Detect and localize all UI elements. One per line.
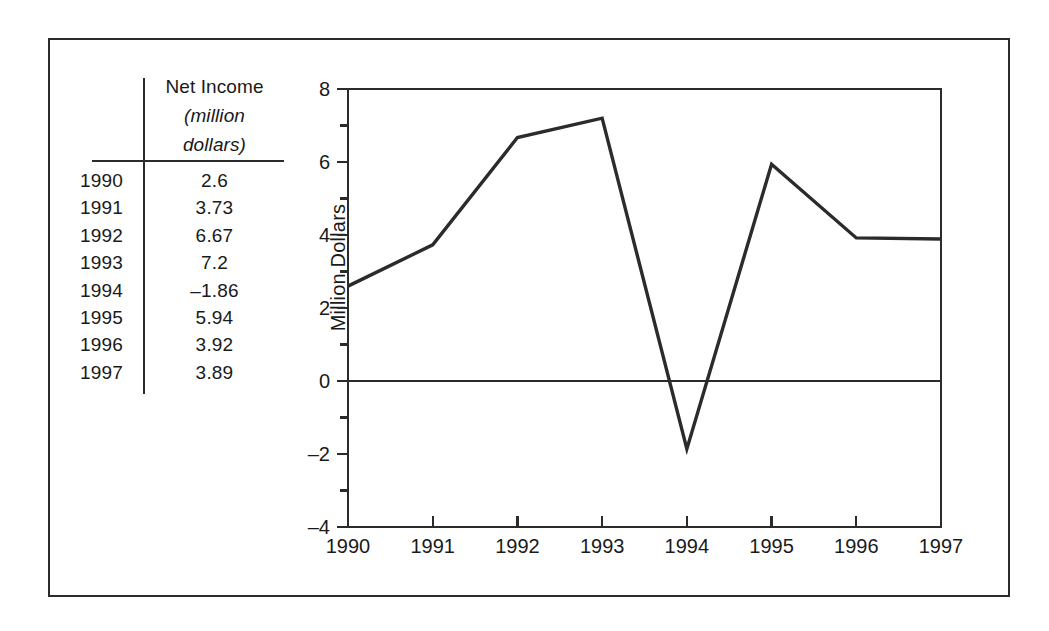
table-cell-year: 1991 (80, 194, 140, 221)
x-tick-label: 1991 (410, 535, 455, 557)
line-chart: Million Dollars –4–202468 19901991199219… (286, 60, 986, 580)
y-tick-label: –2 (308, 443, 330, 465)
plot-frame (348, 89, 941, 527)
table-cell-net-income: 3.73 (145, 194, 284, 221)
x-axis-tick-labels: 19901991199219931994199519961997 (326, 535, 964, 557)
series-polyline-net-income (348, 118, 941, 449)
y-tick-label: 2 (319, 297, 330, 319)
x-tick-label: 1997 (919, 535, 964, 557)
x-tick-label: 1993 (580, 535, 625, 557)
table-cell-year: 1990 (80, 167, 140, 194)
table-row: 19963.92 (74, 331, 284, 358)
table-cell-net-income: 3.89 (145, 359, 284, 386)
x-axis-ticks (348, 516, 941, 527)
x-tick-label: 1990 (326, 535, 371, 557)
table-row: 19913.73 (74, 194, 284, 221)
table-header-line-1: Net Income (145, 72, 284, 101)
table-row: 19955.94 (74, 304, 284, 331)
table-header-rule (92, 160, 284, 162)
x-tick-label: 1995 (749, 535, 794, 557)
x-tick-label: 1996 (834, 535, 879, 557)
y-tick-label: 0 (319, 370, 330, 392)
y-axis-tick-labels: –4–202468 (308, 78, 330, 538)
table-cell-net-income: 5.94 (145, 304, 284, 331)
table-cell-net-income: –1.86 (145, 277, 284, 304)
net-income-series (348, 118, 941, 449)
table-column-header: Net Income (million dollars) (145, 72, 284, 159)
figure-container: Net Income (million dollars) 19902.61991… (0, 0, 1049, 631)
table-header-line-3: dollars) (145, 130, 284, 159)
table-row: 19902.6 (74, 167, 284, 194)
table-row: 19973.89 (74, 359, 284, 386)
chart-svg: –4–202468 199019911992199319941995199619… (286, 60, 986, 580)
table-cell-year: 1993 (80, 249, 140, 276)
y-tick-label: 6 (319, 151, 330, 173)
table-cell-year: 1994 (80, 277, 140, 304)
table-cell-year: 1995 (80, 304, 140, 331)
table-cell-year: 1992 (80, 222, 140, 249)
table-cell-year: 1996 (80, 331, 140, 358)
table-row: 1994–1.86 (74, 277, 284, 304)
data-table: Net Income (million dollars) 19902.61991… (74, 72, 274, 397)
table-row: 19926.67 (74, 222, 284, 249)
table-cell-net-income: 7.2 (145, 249, 284, 276)
y-tick-label: 8 (319, 78, 330, 100)
table-cell-net-income: 6.67 (145, 222, 284, 249)
plot-border (348, 89, 941, 527)
x-tick-label: 1994 (665, 535, 710, 557)
table-row: 19937.2 (74, 249, 284, 276)
x-tick-label: 1992 (495, 535, 540, 557)
table-cell-net-income: 2.6 (145, 167, 284, 194)
y-tick-label: 4 (319, 224, 330, 246)
table-body: 19902.619913.7319926.6719937.21994–1.861… (74, 167, 284, 386)
table-cell-net-income: 3.92 (145, 331, 284, 358)
table-header-line-2: (million (145, 101, 284, 130)
y-axis-ticks (337, 89, 348, 527)
table-cell-year: 1997 (80, 359, 140, 386)
